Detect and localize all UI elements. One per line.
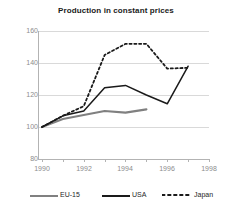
chart-legend: EU-15 USA Japan bbox=[0, 188, 232, 208]
chart-container: Production in constant prices 160 140 12… bbox=[0, 0, 232, 216]
legend-label-eu-15: EU-15 bbox=[60, 191, 80, 198]
legend-swatch-japan bbox=[162, 192, 190, 198]
series-line-japan bbox=[42, 44, 188, 127]
legend-swatch-usa bbox=[102, 195, 130, 197]
legend-label-usa: USA bbox=[132, 191, 146, 198]
legend-label-japan: Japan bbox=[194, 191, 213, 198]
legend-swatch-eu-15 bbox=[30, 195, 58, 197]
series-lines bbox=[0, 0, 232, 216]
